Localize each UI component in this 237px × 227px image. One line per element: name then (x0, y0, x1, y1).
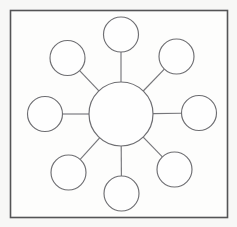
satellite-node-west[interactable] (28, 97, 63, 132)
satellite-node-north[interactable] (104, 17, 139, 52)
satellite-node-south-east[interactable] (157, 152, 192, 187)
satellite-node-north-east[interactable] (159, 39, 194, 74)
hub-and-spoke-diagram (0, 0, 237, 227)
satellite-node-east[interactable] (182, 96, 217, 131)
satellite-node-south-west[interactable] (51, 155, 86, 190)
satellite-node-north-west[interactable] (50, 41, 85, 76)
satellite-node-south[interactable] (104, 176, 139, 211)
diagram-canvas (0, 0, 237, 227)
hub-node[interactable] (89, 82, 153, 146)
